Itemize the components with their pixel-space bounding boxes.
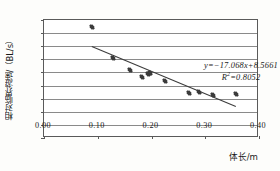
regression-equation: y=−17.068x+8.5661 xyxy=(191,61,280,71)
y-tick-mark xyxy=(41,46,44,47)
gridline xyxy=(44,46,257,47)
x-tick-label: 0.30 xyxy=(196,121,212,130)
plot-area: y=−17.068x+8.5661 R2=0.8052 xyxy=(43,19,258,137)
y-axis-title: 相对临界游速/（BL/s） xyxy=(3,19,17,137)
data-point xyxy=(163,78,169,84)
y-tick-mark xyxy=(41,72,44,73)
gridline xyxy=(44,112,257,113)
y-tick-mark xyxy=(41,99,44,100)
data-point xyxy=(139,75,145,81)
gridline xyxy=(44,99,257,100)
x-tick-mark xyxy=(152,136,153,139)
y-tick-mark xyxy=(41,112,44,113)
y-tick-mark xyxy=(41,20,44,21)
x-tick-mark xyxy=(205,136,206,139)
data-point xyxy=(186,90,192,96)
x-tick-mark xyxy=(98,136,99,139)
x-axis-title: 体长/m xyxy=(0,150,258,162)
x-tick-label: 0.10 xyxy=(89,121,105,130)
r-squared-value: R2=0.8052 xyxy=(191,71,280,82)
regression-annotation: y=−17.068x+8.5661 R2=0.8052 xyxy=(191,61,280,82)
x-tick-label: 0.00 xyxy=(35,121,51,130)
y-tick-mark xyxy=(41,86,44,87)
x-tick-label: 0.20 xyxy=(143,121,159,130)
data-point xyxy=(90,24,96,30)
y-tick-mark xyxy=(41,33,44,34)
x-tick-label: 0.40 xyxy=(250,121,266,130)
gridline xyxy=(44,86,257,87)
x-tick-mark xyxy=(44,136,45,139)
gridline xyxy=(44,33,257,34)
x-tick-mark xyxy=(259,136,260,139)
data-point xyxy=(233,91,239,97)
y-axis-title-text: 相对临界游速/（BL/s） xyxy=(4,36,16,120)
r-squared-number: =0.8052 xyxy=(230,72,260,81)
chart-figure: 相对临界游速/（BL/s） 0.001.002.003.004.005.006.… xyxy=(0,0,280,171)
y-tick-mark xyxy=(41,59,44,60)
